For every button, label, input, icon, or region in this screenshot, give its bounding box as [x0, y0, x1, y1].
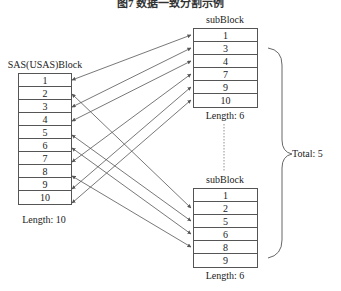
arrow-s1-t1 [72, 35, 191, 80]
arrow-s4-t4 [72, 61, 191, 121]
arrow-s5-b5 [72, 135, 191, 221]
arrow-s7-t7 [72, 74, 191, 162]
arrow-s8-b8 [72, 176, 191, 247]
arrow-s9-t9 [72, 87, 191, 189]
arrow-s3-t3 [72, 48, 191, 107]
connection-arrows [0, 0, 341, 291]
grouping-brace-icon [268, 48, 292, 258]
